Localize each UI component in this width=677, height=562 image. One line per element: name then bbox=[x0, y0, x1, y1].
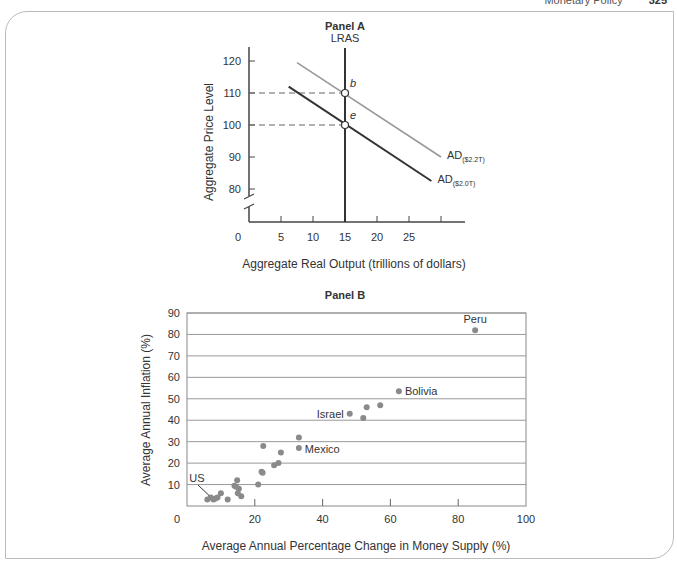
data-point bbox=[276, 460, 282, 466]
panel-a: Panel A Aggregate Price Level Aggregate … bbox=[202, 20, 485, 271]
panel-b-xlabel: Average Annual Percentage Change in Mone… bbox=[202, 539, 511, 553]
data-point bbox=[238, 493, 244, 499]
panel-a-xtick: 10 bbox=[307, 231, 319, 243]
panel-b-title: Panel B bbox=[325, 289, 365, 301]
panel-a-axes: 80901001101200510152025 bbox=[223, 47, 465, 243]
data-point bbox=[377, 402, 383, 408]
point-label: e bbox=[350, 109, 356, 121]
country-label: Israel bbox=[317, 408, 344, 420]
panel-b-points: MexicoIsraelBoliviaPeruUS bbox=[189, 313, 486, 502]
panel-a-xtick: 5 bbox=[278, 231, 284, 243]
panel-b-ytick: 60 bbox=[168, 371, 180, 383]
ad-curve-label: AD($2.0T) bbox=[437, 173, 475, 188]
data-point bbox=[296, 434, 302, 440]
data-point bbox=[347, 411, 353, 417]
data-point bbox=[360, 415, 366, 421]
panel-a-ytick: 80 bbox=[229, 183, 241, 195]
panel-a-ylabel: Aggregate Price Level bbox=[202, 83, 216, 201]
data-point bbox=[296, 445, 302, 451]
panel-a-xlabel: Aggregate Real Output (trillions of doll… bbox=[242, 257, 465, 271]
panel-a-ytick: 120 bbox=[223, 55, 241, 67]
data-point bbox=[255, 482, 261, 488]
equilibrium-point-b bbox=[342, 90, 349, 97]
country-label: Peru bbox=[464, 313, 487, 325]
panel-b-ytick: 30 bbox=[168, 436, 180, 448]
panel-b-xtick: 100 bbox=[517, 513, 535, 525]
data-point bbox=[472, 327, 478, 333]
panel-a-ytick: 110 bbox=[223, 87, 241, 99]
panel-b-ylabel: Average Annual Inflation (%) bbox=[139, 334, 153, 486]
data-point bbox=[260, 443, 266, 449]
country-label: Bolivia bbox=[405, 385, 438, 397]
ad-curve-label: AD($2.2T) bbox=[447, 149, 485, 164]
figure: Panel A Aggregate Price Level Aggregate … bbox=[0, 0, 677, 562]
panel-a-xtick: 20 bbox=[371, 231, 383, 243]
panel-b-xtick: 20 bbox=[249, 513, 261, 525]
panel-b-ytick: 10 bbox=[168, 479, 180, 491]
equilibrium-point-e bbox=[342, 122, 349, 129]
panel-b-plot-frame bbox=[187, 313, 526, 506]
us-label: US bbox=[189, 472, 204, 484]
panel-b-ytick: 20 bbox=[168, 457, 180, 469]
ad-curve bbox=[297, 63, 441, 157]
data-point bbox=[260, 470, 266, 476]
data-point bbox=[278, 449, 284, 455]
panel-a-curves: LRASAD($2.0T)AD($2.2T)be bbox=[249, 32, 485, 222]
panel-a-ytick: 100 bbox=[223, 119, 241, 131]
country-label: Mexico bbox=[305, 443, 340, 455]
data-point bbox=[396, 388, 402, 394]
panel-b-xtick: 60 bbox=[384, 513, 396, 525]
data-point bbox=[225, 497, 231, 503]
panel-b-ytick: 40 bbox=[168, 414, 180, 426]
panel-b-xtick: 80 bbox=[452, 513, 464, 525]
panel-a-xtick: 0 bbox=[235, 231, 241, 243]
panel-b-xtick: 40 bbox=[316, 513, 328, 525]
panel-b-ytick: 80 bbox=[168, 328, 180, 340]
panel-b-ytick: 70 bbox=[168, 350, 180, 362]
panel-a-title: Panel A bbox=[325, 20, 365, 32]
data-point bbox=[234, 477, 240, 483]
lras-label: LRAS bbox=[331, 32, 360, 44]
panel-b-ytick: 50 bbox=[168, 393, 180, 405]
panel-a-xtick: 15 bbox=[339, 231, 351, 243]
ad-curve bbox=[289, 87, 432, 181]
panel-a-ytick: 90 bbox=[229, 151, 241, 163]
us-pointer bbox=[198, 485, 209, 495]
panel-a-xtick: 25 bbox=[403, 231, 415, 243]
data-point bbox=[218, 490, 224, 496]
panel-b-ytick: 90 bbox=[168, 307, 180, 319]
point-label: b bbox=[350, 77, 356, 89]
data-point bbox=[364, 404, 370, 410]
data-point bbox=[236, 486, 242, 492]
panel-b-origin: 0 bbox=[174, 513, 180, 525]
panel-b: Panel B Average Annual Inflation (%) Ave… bbox=[139, 289, 535, 553]
